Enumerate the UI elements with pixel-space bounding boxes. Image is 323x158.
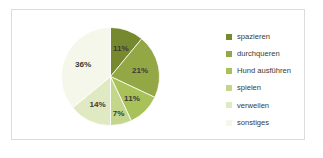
legend-swatch-icon [226,68,232,74]
legend-item-label: sonstiges [237,119,269,127]
chart-frame: 11%21%11%7%14%36% spazierendurchquerenHu… [11,9,305,140]
pie-data-label: 7% [113,109,125,118]
legend-item[interactable]: spielen [226,80,312,97]
legend-item-label: durchqueren [237,50,280,58]
legend-swatch-icon [226,34,232,40]
pie-chart-svg: 11%21%11%7%14%36% [61,27,160,126]
pie-data-label: 11% [124,94,140,103]
legend-item-label: spazieren [237,33,270,41]
pie-data-label: 14% [89,100,105,109]
pie-data-label: 21% [132,66,148,75]
legend-swatch-icon [226,51,232,57]
pie-data-label: 11% [113,44,129,53]
legend-item[interactable]: Hund ausführen [226,62,312,79]
chart-legend: spazierendurchquerenHund ausführenspiele… [226,28,312,132]
legend-item-label: verweilen [237,102,269,110]
legend-swatch-icon [226,85,232,91]
legend-item[interactable]: durchqueren [226,45,312,62]
legend-swatch-icon [226,120,232,126]
pie-data-label: 36% [75,60,91,69]
legend-item-label: spielen [237,84,261,92]
legend-swatch-icon [226,102,232,108]
legend-item[interactable]: sonstiges [226,114,312,131]
pie-chart: 11%21%11%7%14%36% [61,27,160,126]
chart-plot-area: 11%21%11%7%14%36% spazierendurchquerenHu… [12,10,306,141]
legend-item[interactable]: verweilen [226,97,312,114]
pie-slice-group [61,27,159,125]
legend-item[interactable]: spazieren [226,28,312,45]
legend-item-label: Hund ausführen [237,67,291,75]
